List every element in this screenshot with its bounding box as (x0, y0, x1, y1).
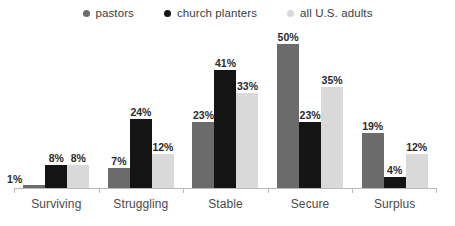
bar-rect (406, 154, 428, 188)
axis-tick (183, 188, 184, 193)
category-label-stable: Stable (183, 198, 268, 211)
bar-surplus-all-u-s-adults[interactable]: 12% (406, 154, 428, 188)
bar-stable-pastors[interactable]: 23% (192, 122, 214, 188)
bar-value-label: 41% (215, 58, 236, 69)
bar-value-label: 8% (49, 153, 64, 164)
category-label-struggling: Struggling (99, 198, 184, 211)
bar-stable-church-planters[interactable]: 41% (214, 70, 236, 188)
bar-group-stable: 23%41%33% (183, 30, 268, 188)
bar-value-label: 12% (406, 142, 427, 153)
bar-struggling-church-planters[interactable]: 24% (130, 119, 152, 188)
legend-swatch-icon (287, 10, 294, 17)
bar-group-struggling: 7%24%12% (99, 30, 184, 188)
bar-rect (130, 119, 152, 188)
legend-label: pastors (96, 8, 134, 20)
bar-rect (362, 133, 384, 188)
axis-tick (14, 188, 15, 193)
bar-value-label: 4% (387, 165, 402, 176)
bar-struggling-all-u-s-adults[interactable]: 12% (152, 154, 174, 188)
bar-rect (45, 165, 67, 188)
category-label-surplus: Surplus (352, 198, 437, 211)
legend-label: church planters (177, 8, 257, 20)
bar-rect (214, 70, 236, 188)
bar-rect (108, 168, 130, 188)
legend-label: all U.S. adults (300, 8, 372, 20)
bar-value-label: 19% (362, 121, 383, 132)
bar-rect (321, 87, 343, 188)
legend-swatch-icon (83, 10, 90, 17)
bar-stable-all-u-s-adults[interactable]: 33% (236, 93, 258, 188)
chart-legend: pastorschurch plantersall U.S. adults (0, 8, 455, 20)
axis-tick (352, 188, 353, 193)
bar-rect (236, 93, 258, 188)
axis-tick (99, 188, 100, 193)
bar-value-label: 50% (278, 32, 299, 43)
bar-group-surplus: 19%4%12% (352, 30, 437, 188)
axis-tick (268, 188, 269, 193)
bar-rect (277, 44, 299, 188)
bar-secure-all-u-s-adults[interactable]: 35% (321, 87, 343, 188)
bar-rect (152, 154, 174, 188)
category-label-secure: Secure (268, 198, 353, 211)
grouped-bar-chart: pastorschurch plantersall U.S. adults 1%… (0, 0, 455, 226)
bar-surplus-pastors[interactable]: 19% (362, 133, 384, 188)
bar-struggling-pastors[interactable]: 7% (108, 168, 130, 188)
bar-secure-pastors[interactable]: 50% (277, 44, 299, 188)
legend-swatch-icon (164, 10, 171, 17)
legend-item-pastors[interactable]: pastors (83, 8, 134, 20)
bar-value-label: 12% (152, 142, 173, 153)
bar-surviving-church-planters[interactable]: 8% (45, 165, 67, 188)
legend-item-church-planters[interactable]: church planters (164, 8, 257, 20)
bar-group-secure: 50%23%35% (268, 30, 353, 188)
category-labels: SurvivingStrugglingStableSecureSurplus (14, 198, 437, 211)
bar-value-label: 24% (130, 107, 151, 118)
legend-item-all-u-s-adults[interactable]: all U.S. adults (287, 8, 372, 20)
bar-value-label: 23% (300, 110, 321, 121)
bar-group-surviving: 1%8%8% (14, 30, 99, 188)
plot-area: 1%8%8%7%24%12%23%41%33%50%23%35%19%4%12% (14, 30, 437, 188)
bar-rect (67, 165, 89, 188)
bar-value-label: 23% (193, 110, 214, 121)
bar-value-label: 33% (237, 81, 258, 92)
bar-rect (192, 122, 214, 188)
bar-secure-church-planters[interactable]: 23% (299, 122, 321, 188)
category-label-surviving: Surviving (14, 198, 99, 211)
bar-rect (384, 177, 406, 188)
bar-groups: 1%8%8%7%24%12%23%41%33%50%23%35%19%4%12% (14, 30, 437, 188)
bar-value-label: 7% (111, 156, 126, 167)
bar-rect (299, 122, 321, 188)
bar-value-label: 35% (322, 75, 343, 86)
axis-baseline (14, 188, 437, 189)
bar-value-label: 1% (7, 174, 22, 185)
bar-value-label: 8% (71, 153, 86, 164)
bar-surviving-all-u-s-adults[interactable]: 8% (67, 165, 89, 188)
x-axis (14, 188, 437, 194)
bar-surplus-church-planters[interactable]: 4% (384, 177, 406, 188)
axis-tick (436, 188, 437, 193)
